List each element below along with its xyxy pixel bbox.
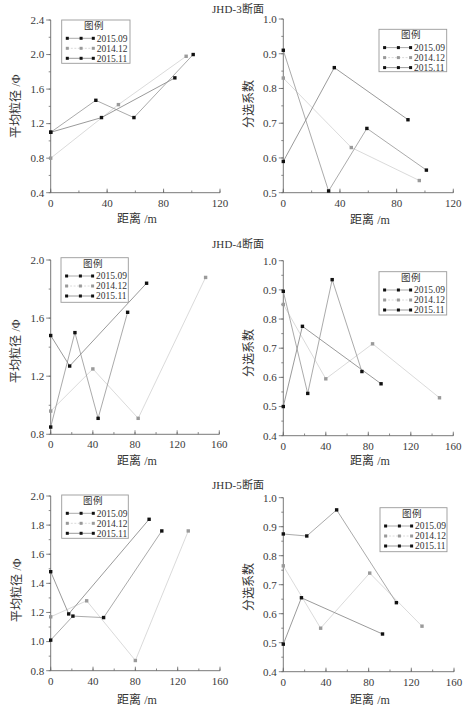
legend: 图例2015.092014.122015.11 <box>61 258 128 303</box>
legend-marker-swatch <box>398 535 401 538</box>
y-tick-label: 1.8 <box>30 519 44 531</box>
data-point-marker <box>300 596 303 599</box>
legend-marker-swatch <box>92 47 95 50</box>
legend-marker-swatch <box>65 295 68 298</box>
data-point-marker <box>85 599 88 602</box>
data-point-marker <box>96 417 99 420</box>
x-tick-label: 120 <box>403 440 420 452</box>
legend-label: 2014.12 <box>414 295 445 305</box>
data-point-marker <box>305 534 308 537</box>
x-axis-label: 距离 /m <box>117 451 157 469</box>
data-point-marker <box>49 131 52 134</box>
data-point-marker <box>49 570 52 573</box>
legend-label: 2014.12 <box>415 531 446 541</box>
series-line-2014-12 <box>51 56 186 158</box>
data-point-marker <box>333 66 336 69</box>
legend-marker-swatch <box>398 545 401 548</box>
legend-marker-swatch <box>92 37 95 40</box>
data-point-marker <box>49 334 52 337</box>
y-tick-label: 0.8 <box>30 665 44 677</box>
x-tick-label: 40 <box>320 676 332 688</box>
legend-marker-swatch <box>80 47 83 50</box>
legend-marker-swatch <box>66 47 69 50</box>
data-point-marker <box>134 659 137 662</box>
legend-marker-swatch <box>66 532 69 535</box>
data-point-marker <box>132 116 135 119</box>
series-line-2015-09 <box>283 280 362 394</box>
legend-label: 2015.11 <box>97 54 128 64</box>
legend-marker-swatch <box>410 525 413 528</box>
y-tick-label: 0.6 <box>263 371 277 383</box>
x-tick-label: 80 <box>130 438 142 450</box>
x-tick-label: 160 <box>211 438 228 450</box>
series-line-2015-11 <box>283 68 408 162</box>
legend-marker-swatch <box>383 289 386 292</box>
data-point-marker <box>49 638 52 641</box>
data-point-marker <box>204 276 207 279</box>
data-point-marker <box>368 571 371 574</box>
series-line-2014-12 <box>283 566 422 628</box>
data-point-marker <box>350 146 353 149</box>
series-line-2015-09 <box>283 510 396 603</box>
y-tick-label: 0.6 <box>263 152 277 164</box>
y-tick-label: 0.5 <box>263 637 277 649</box>
legend-marker-swatch <box>91 295 94 298</box>
legend-marker-swatch <box>79 295 82 298</box>
data-point-marker <box>282 564 285 567</box>
x-axis-label: 距离 /m <box>350 451 390 469</box>
y-tick-label: 2.4 <box>30 14 44 26</box>
data-point-marker <box>327 189 330 192</box>
x-tick-label: 80 <box>391 197 403 209</box>
data-point-marker <box>94 99 97 102</box>
x-tick-label: 120 <box>169 675 186 687</box>
series-line-2015-09 <box>51 531 162 640</box>
legend-marker-swatch <box>79 275 82 278</box>
legend-label: 2015.11 <box>414 305 445 315</box>
data-point-marker <box>49 409 52 412</box>
y-tick-label: 1.6 <box>30 548 44 560</box>
legend-marker-swatch <box>91 285 94 288</box>
legend-marker-swatch <box>410 545 413 548</box>
data-point-marker <box>191 53 194 56</box>
legend-marker-swatch <box>384 525 387 528</box>
x-tick-label: 0 <box>281 440 287 452</box>
x-tick-label: 0 <box>48 197 54 209</box>
data-point-marker <box>282 160 285 163</box>
data-point-marker <box>324 377 327 380</box>
legend-label: 2015.09 <box>414 285 445 295</box>
data-point-marker <box>438 396 441 399</box>
legend-marker-swatch <box>80 57 83 60</box>
y-tick-label: 0.8 <box>30 152 44 164</box>
x-tick-label: 40 <box>102 197 114 209</box>
y-axis-label: 平均粒径 /Φ <box>7 558 25 621</box>
data-point-marker <box>365 127 368 130</box>
y-tick-label: 0.8 <box>263 313 277 325</box>
legend-marker-swatch <box>383 66 386 69</box>
legend-label: 2015.09 <box>414 43 445 53</box>
data-point-marker <box>425 168 428 171</box>
data-point-marker <box>379 382 382 385</box>
legend-marker-swatch <box>383 299 386 302</box>
data-point-marker <box>395 601 398 604</box>
legend-marker-swatch <box>65 275 68 278</box>
x-tick-label: 40 <box>87 438 99 450</box>
legend-marker-swatch <box>91 275 94 278</box>
y-tick-label: 1.0 <box>263 492 277 504</box>
legend-marker-swatch <box>409 66 412 69</box>
legend-label: 2015.09 <box>97 34 128 44</box>
series-line-2015-09 <box>51 312 128 427</box>
y-axis-label: 分选系数 <box>239 329 257 377</box>
y-tick-label: 1.0 <box>30 635 44 647</box>
data-point-marker <box>160 529 163 532</box>
data-point-marker <box>147 518 150 521</box>
y-tick-label: 0.6 <box>263 608 277 620</box>
legend-label: 2015.11 <box>415 541 446 551</box>
y-tick-label: 1.6 <box>30 83 44 95</box>
chart-jhd3-sorting-coefficient: 0.50.60.70.80.91.004080120图例2015.092014.… <box>263 13 462 209</box>
legend-marker-swatch <box>397 56 400 59</box>
x-tick-label: 0 <box>281 676 287 688</box>
legend-marker-swatch <box>409 56 412 59</box>
data-point-marker <box>282 290 285 293</box>
legend-label: 2015.09 <box>97 509 128 519</box>
x-tick-label: 0 <box>281 197 287 209</box>
